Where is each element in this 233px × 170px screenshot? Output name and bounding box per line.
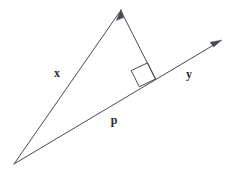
diagram-canvas: x y p bbox=[0, 0, 233, 170]
label-p: p bbox=[111, 113, 118, 127]
label-x: x bbox=[54, 66, 60, 80]
right-angle-icon bbox=[131, 63, 155, 87]
ray-p-line bbox=[14, 43, 217, 164]
label-y: y bbox=[186, 67, 192, 81]
vector-x-line bbox=[14, 13, 119, 164]
vector-projection-figure: x y p bbox=[0, 0, 233, 170]
